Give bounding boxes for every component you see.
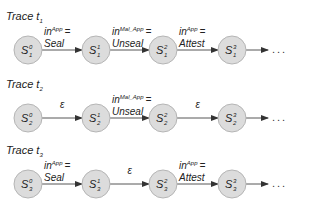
- input-value-label: Seal: [44, 38, 65, 49]
- continuation-ellipsis: ...: [272, 177, 287, 189]
- state-name: S: [225, 178, 233, 190]
- trace-title-text: Trace t: [6, 10, 40, 22]
- state-name: S: [89, 112, 97, 124]
- state-name: S: [156, 44, 164, 56]
- state-label: S: [156, 44, 164, 56]
- state-label: S: [89, 112, 97, 124]
- state-superscript: 1: [97, 178, 100, 184]
- trace-title-text: Trace t: [6, 144, 40, 156]
- state-name: S: [89, 44, 97, 56]
- epsilon-symbol: ε: [196, 99, 201, 110]
- state-label: S: [21, 44, 29, 56]
- trace-diagram: Trace t1inApp=SealinMal_App=UnsealinApp=…: [0, 0, 313, 205]
- input-value-label: Attest: [178, 172, 206, 183]
- input-value-label: Seal: [44, 172, 65, 183]
- trace-title: Trace t2: [6, 78, 43, 92]
- state-node: S32: [218, 104, 246, 132]
- input-value-label: Unseal: [112, 106, 144, 117]
- input-value: Unseal: [112, 38, 144, 49]
- state-superscript: 1: [97, 44, 100, 50]
- state-label: S: [225, 178, 233, 190]
- state-subscript: 1: [233, 52, 236, 58]
- state-node: S31: [218, 36, 246, 64]
- state-label: S: [225, 112, 233, 124]
- state-label: S: [156, 112, 164, 124]
- state-superscript: 1: [97, 112, 100, 118]
- state-node: S21: [149, 36, 177, 64]
- trace-title-subscript: 1: [39, 18, 42, 24]
- input-value: Unseal: [112, 106, 144, 117]
- state-node: S02: [14, 104, 42, 132]
- input-var-label: inApp=: [44, 160, 70, 171]
- state-name: S: [156, 178, 164, 190]
- input-var-superscript: Mal_App: [120, 94, 144, 100]
- trace-2: Trace t2εinMal_App=Unsealε...S02S12S22S3…: [6, 78, 287, 132]
- state-node: S23: [149, 170, 177, 198]
- input-value: Seal: [44, 38, 65, 49]
- trace-title-subscript: 3: [39, 152, 43, 158]
- state-name: S: [21, 44, 29, 56]
- input-value: Attest: [178, 172, 206, 183]
- input-value: Seal: [44, 172, 65, 183]
- epsilon-symbol: ε: [60, 99, 65, 110]
- epsilon-label: ε: [128, 165, 133, 176]
- state-label: S: [21, 178, 29, 190]
- state-subscript: 1: [29, 52, 32, 58]
- epsilon-label: ε: [196, 99, 201, 110]
- state-label: S: [225, 44, 233, 56]
- state-label: S: [21, 112, 29, 124]
- input-var-superscript: App: [186, 160, 198, 166]
- state-subscript: 2: [96, 120, 101, 126]
- state-subscript: 2: [28, 120, 33, 126]
- state-name: S: [225, 112, 233, 124]
- state-node: S13: [82, 170, 110, 198]
- equals-sign: =: [145, 26, 151, 37]
- state-label: S: [89, 178, 97, 190]
- state-name: S: [225, 44, 233, 56]
- equals-sign: =: [64, 26, 70, 37]
- state-subscript: 2: [232, 120, 237, 126]
- state-node: S22: [149, 104, 177, 132]
- input-value: Attest: [178, 38, 206, 49]
- state-subscript: 1: [97, 52, 100, 58]
- input-value-label: Unseal: [112, 38, 144, 49]
- state-name: S: [21, 178, 29, 190]
- state-node: S12: [82, 104, 110, 132]
- state-node: S01: [14, 36, 42, 64]
- state-name: S: [156, 112, 164, 124]
- input-var-label: inMal_App=: [112, 94, 151, 105]
- state-subscript: 2: [163, 120, 168, 126]
- input-value-label: Attest: [178, 38, 206, 49]
- state-label: S: [156, 178, 164, 190]
- trace-title: Trace t3: [6, 144, 43, 158]
- state-subscript: 1: [164, 52, 167, 58]
- state-name: S: [21, 112, 29, 124]
- equals-sign: =: [199, 160, 205, 171]
- trace-3: Trace t3inApp=SealεinApp=Attest...S03S13…: [6, 144, 287, 198]
- input-var-superscript: App: [186, 26, 198, 32]
- trace-1: Trace t1inApp=SealinMal_App=UnsealinApp=…: [6, 10, 287, 64]
- continuation-ellipsis: ...: [272, 43, 287, 55]
- input-var-label: inApp=: [179, 26, 205, 37]
- state-name: S: [89, 178, 97, 190]
- trace-title-text: Trace t: [6, 78, 40, 90]
- input-var-superscript: App: [51, 26, 63, 32]
- state-superscript: 2: [163, 44, 168, 50]
- equals-sign: =: [199, 26, 205, 37]
- state-node: S33: [218, 170, 246, 198]
- input-var-superscript: Mal_App: [120, 26, 144, 32]
- state-superscript: 2: [163, 178, 168, 184]
- input-var-superscript: App: [51, 160, 63, 166]
- state-superscript: 2: [163, 112, 168, 118]
- input-var-label: inApp=: [179, 160, 205, 171]
- trace-title-subscript: 2: [38, 86, 43, 92]
- state-node: S03: [14, 170, 42, 198]
- state-node: S11: [82, 36, 110, 64]
- trace-title: Trace t1: [6, 10, 43, 24]
- epsilon-symbol: ε: [128, 165, 133, 176]
- input-var-label: inApp=: [44, 26, 70, 37]
- state-label: S: [89, 44, 97, 56]
- equals-sign: =: [64, 160, 70, 171]
- continuation-ellipsis: ...: [272, 111, 287, 123]
- equals-sign: =: [145, 94, 151, 105]
